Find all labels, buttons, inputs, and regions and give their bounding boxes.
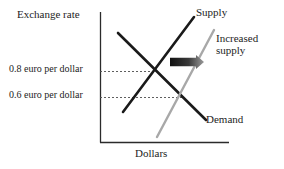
demand-curve [118, 33, 206, 120]
y-tick-label-0-8: 0.8 euro per dollar [9, 64, 83, 75]
exchange-rate-supply-demand-diagram: Exchange rate Dollars 0.8 euro per dolla… [0, 0, 284, 169]
curve-label-increased-supply: Increasedsupply [216, 33, 278, 57]
curves [118, 17, 214, 137]
y-axis-title: Exchange rate [17, 9, 80, 21]
x-axis-title: Dollars [135, 148, 167, 160]
curve-label-supply: Supply [196, 7, 227, 19]
y-tick-label-0-6: 0.6 euro per dollar [9, 90, 83, 101]
diagram-canvas [0, 0, 284, 169]
increased-supply-label-line-2: supply [216, 45, 278, 57]
curve-label-demand: Demand [206, 114, 243, 126]
increased-supply-label-line-1: Increased [216, 32, 258, 44]
